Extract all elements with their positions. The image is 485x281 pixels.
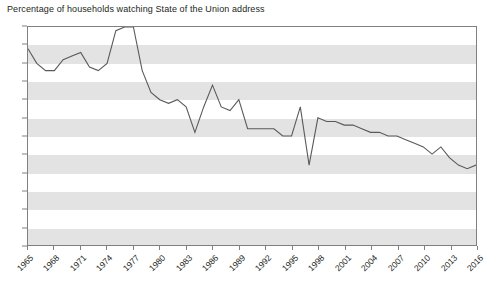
series-svg — [28, 27, 476, 245]
x-axis-tick-mark — [80, 246, 81, 250]
x-axis-tick-mark — [159, 246, 160, 250]
x-axis-tick-mark — [106, 246, 107, 250]
x-axis: 1965196819711974197719801983198619891992… — [0, 246, 482, 281]
x-axis-tick-mark — [239, 246, 240, 250]
y-axis: 051015202530354045505560 — [0, 0, 27, 281]
x-axis-tick-mark — [424, 246, 425, 250]
x-axis-tick-mark — [318, 246, 319, 250]
x-axis-tick-mark — [477, 246, 478, 250]
x-axis-tick-mark — [212, 246, 213, 250]
x-axis-tick-mark — [53, 246, 54, 250]
x-axis-tick-mark — [398, 246, 399, 250]
x-axis-tick-mark — [371, 246, 372, 250]
x-axis-tick-mark — [265, 246, 266, 250]
x-axis-tick-mark — [133, 246, 134, 250]
x-axis-tick-mark — [292, 246, 293, 250]
x-axis-tick-mark — [451, 246, 452, 250]
x-axis-tick-mark — [345, 246, 346, 250]
chart-title: Percentage of households watching State … — [7, 4, 265, 14]
x-axis-tick-mark — [27, 246, 28, 250]
x-axis-tick-mark — [186, 246, 187, 250]
series-line-households — [28, 27, 476, 169]
plot-area — [27, 26, 477, 246]
